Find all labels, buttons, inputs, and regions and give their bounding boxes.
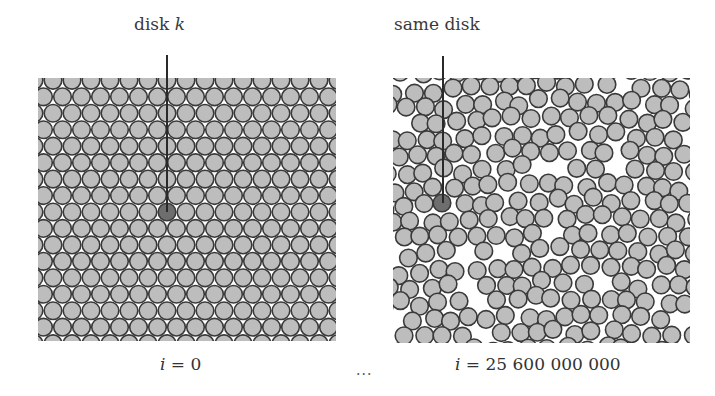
disk (38, 253, 52, 271)
disk (149, 253, 167, 271)
disk (272, 104, 290, 122)
disk (479, 210, 497, 228)
disk (621, 141, 639, 159)
disk (320, 121, 336, 139)
disk (651, 210, 669, 228)
disk (310, 203, 328, 221)
disk (63, 137, 81, 155)
disk (654, 111, 672, 129)
disk (234, 78, 252, 89)
disk (187, 220, 205, 238)
disk (244, 154, 262, 172)
disk (206, 285, 224, 303)
left-disk-panel (38, 78, 336, 341)
disk (168, 253, 186, 271)
disk (130, 318, 148, 336)
disk (139, 236, 157, 254)
disk (676, 295, 690, 313)
disk (612, 273, 630, 291)
disk (301, 318, 319, 336)
disk (542, 289, 560, 307)
disk (111, 318, 129, 336)
disk (487, 144, 505, 162)
disk (502, 107, 520, 125)
disk (417, 244, 435, 262)
disk (120, 137, 138, 155)
disk (130, 253, 148, 271)
disk (225, 318, 243, 336)
right-disk-panel (393, 78, 690, 343)
disk (111, 253, 129, 271)
disk (291, 137, 309, 155)
disk (652, 311, 670, 329)
disk (92, 318, 110, 336)
disk (301, 220, 319, 238)
disk (196, 203, 214, 221)
disk (448, 112, 466, 130)
disk (101, 236, 119, 254)
disk (44, 137, 62, 155)
disk (206, 253, 224, 271)
disk (187, 253, 205, 271)
disk (282, 187, 300, 205)
disk (149, 121, 167, 139)
disk (73, 220, 91, 238)
disk (168, 187, 186, 205)
left-callout-label: disk k (134, 14, 185, 34)
disk (215, 269, 233, 287)
disk (101, 78, 119, 89)
disk (505, 261, 523, 279)
disk (82, 78, 100, 89)
disk (215, 78, 233, 89)
disk (310, 78, 328, 89)
disk (301, 253, 319, 271)
disk (54, 154, 72, 172)
disk (291, 302, 309, 320)
right-caption-eq: = (466, 354, 480, 374)
disk (120, 170, 138, 188)
disk (225, 88, 243, 106)
disk (253, 137, 271, 155)
disk (272, 137, 290, 155)
disk (320, 253, 336, 271)
disk (670, 276, 688, 294)
disk (643, 327, 661, 343)
disk (577, 206, 595, 224)
disk (44, 269, 62, 287)
disk (595, 144, 613, 162)
disk (559, 142, 577, 160)
disk (177, 269, 195, 287)
disk (439, 275, 457, 293)
disk (488, 291, 506, 309)
disk (111, 220, 129, 238)
disk (177, 302, 195, 320)
disk (234, 236, 252, 254)
disk (168, 154, 186, 172)
disk (54, 318, 72, 336)
disk (149, 187, 167, 205)
disk (475, 242, 493, 260)
disk (44, 78, 62, 89)
disk (82, 104, 100, 122)
disk (622, 192, 640, 210)
disk (320, 318, 336, 336)
disk (73, 285, 91, 303)
disk (263, 285, 281, 303)
disk (663, 326, 681, 343)
disk (609, 242, 627, 260)
disk (397, 98, 415, 116)
disk (415, 195, 433, 213)
disk (130, 88, 148, 106)
disk (320, 285, 336, 303)
disk (477, 311, 495, 329)
disk (263, 88, 281, 106)
disk (177, 203, 195, 221)
disk (234, 104, 252, 122)
disk (177, 137, 195, 155)
disk (244, 187, 262, 205)
disk (38, 318, 52, 336)
disk (263, 121, 281, 139)
disk (130, 154, 148, 172)
disk (551, 89, 569, 107)
disk (411, 227, 429, 245)
